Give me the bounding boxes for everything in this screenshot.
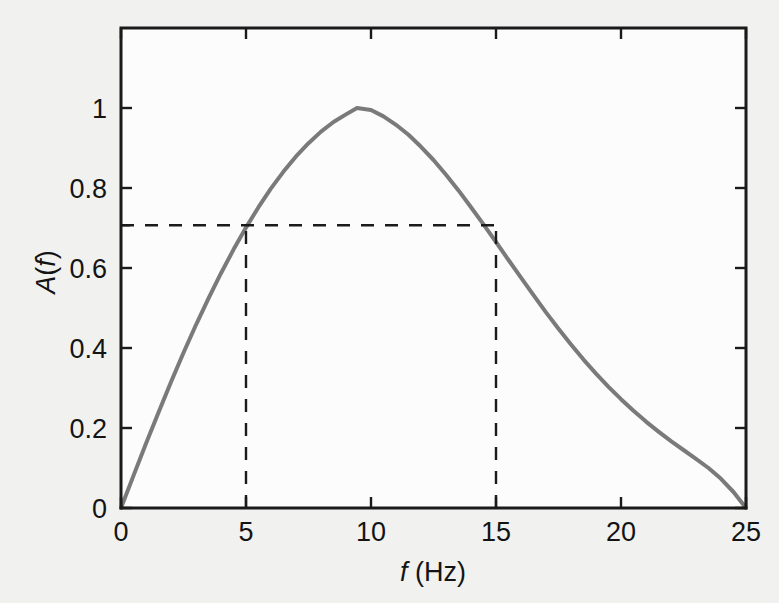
- x-axis-tick-label-25: 25: [731, 517, 761, 547]
- x-axis-title: f (Hz): [400, 557, 466, 587]
- plot-area-background: [121, 28, 746, 508]
- y-axis-title: A(f): [31, 250, 61, 296]
- amplitude-response-chart: 0510152025 00.20.40.60.81 f (Hz) A(f): [0, 0, 779, 603]
- y-axis-tick-label-1: 1: [92, 94, 107, 124]
- x-axis-tick-label-15: 15: [481, 517, 511, 547]
- y-axis-title-open-paren: (: [31, 267, 61, 276]
- y-axis-tick-label-0.2: 0.2: [69, 414, 107, 444]
- x-axis-tick-label-5: 5: [238, 517, 253, 547]
- x-axis-tick-label-10: 10: [356, 517, 386, 547]
- y-axis-tick-label-0.6: 0.6: [69, 254, 107, 284]
- x-axis-tick-label-0: 0: [113, 517, 128, 547]
- figure-container: 0510152025 00.20.40.60.81 f (Hz) A(f): [0, 0, 779, 603]
- y-axis-tick-label-0.8: 0.8: [69, 174, 107, 204]
- y-axis-tick-label-0: 0: [92, 494, 107, 524]
- x-axis-title-unit: (Hz): [415, 557, 466, 587]
- x-axis-tick-label-20: 20: [606, 517, 636, 547]
- y-axis-title-prefix: A: [31, 276, 61, 296]
- y-axis-tick-label-0.4: 0.4: [69, 334, 107, 364]
- y-axis-title-close-paren: ): [31, 250, 61, 259]
